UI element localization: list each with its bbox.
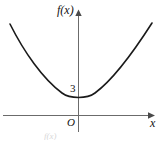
origin-label: O — [67, 117, 75, 128]
parabola-curve-group — [10, 23, 152, 98]
cropped-caption-artifact: f(x) — [44, 132, 57, 140]
axes-group — [3, 10, 155, 133]
y-intercept-label: 3 — [70, 83, 76, 94]
y-axis-label: f(x) — [57, 4, 74, 16]
plot-canvas — [0, 0, 161, 142]
parabola-curve — [10, 23, 152, 98]
y-axis-arrowhead — [75, 10, 81, 17]
x-axis-label: x — [150, 117, 155, 129]
function-graph-figure: f(x) x O 3 f(x) — [0, 0, 161, 142]
